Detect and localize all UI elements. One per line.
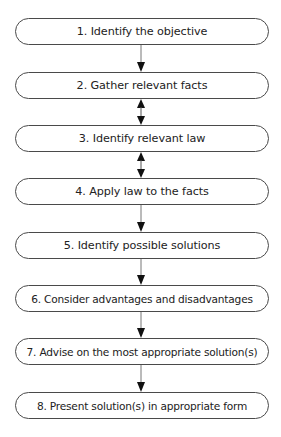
step-1-box: 1. Identify the objective	[15, 18, 269, 45]
step-3-label: 3. Identify relevant law	[79, 132, 205, 145]
step-6-box: 6. Consider advantages and disadvantages	[15, 285, 269, 312]
arrow-down-icon	[131, 259, 151, 285]
step-5-box: 5. Identify possible solutions	[15, 232, 269, 259]
step-3-box: 3. Identify relevant law	[15, 125, 269, 152]
step-7-box: 7. Advise on the most appropriate soluti…	[15, 338, 269, 365]
step-5-label: 5. Identify possible solutions	[64, 239, 221, 252]
arrow-down-icon	[131, 365, 151, 392]
arrow-down-icon	[131, 45, 151, 72]
step-4-box: 4. Apply law to the facts	[15, 178, 269, 205]
step-2-box: 2. Gather relevant facts	[15, 72, 269, 99]
step-8-box: 8. Present solution(s) in appropriate fo…	[15, 392, 269, 419]
arrow-down-icon	[131, 205, 151, 232]
arrow-down-icon	[131, 312, 151, 338]
step-7-label: 7. Advise on the most appropriate soluti…	[27, 346, 258, 358]
step-2-label: 2. Gather relevant facts	[77, 79, 208, 92]
step-4-label: 4. Apply law to the facts	[75, 185, 208, 198]
step-1-label: 1. Identify the objective	[77, 25, 208, 38]
flowchart: 1. Identify the objective 2. Gather rele…	[0, 0, 281, 437]
step-6-label: 6. Consider advantages and disadvantages	[31, 293, 253, 305]
arrow-bidirectional-icon	[131, 152, 151, 178]
arrow-bidirectional-icon	[131, 99, 151, 125]
step-8-label: 8. Present solution(s) in appropriate fo…	[37, 400, 247, 412]
